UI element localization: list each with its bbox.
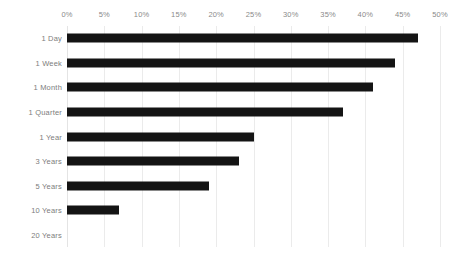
x-tick-label: 10% xyxy=(134,10,150,19)
y-category-label: 3 Years xyxy=(36,157,62,166)
x-tick-label: 50% xyxy=(432,10,448,19)
x-tick-label: 30% xyxy=(283,10,299,19)
bar xyxy=(67,132,254,141)
bar xyxy=(67,157,239,166)
bar xyxy=(67,83,373,92)
x-tick-label: 15% xyxy=(171,10,187,19)
plot-area xyxy=(67,26,440,247)
y-category-label: 1 Week xyxy=(36,58,63,67)
bar xyxy=(67,206,119,215)
y-category-label: 20 Years xyxy=(31,230,62,239)
x-tick-label: 40% xyxy=(358,10,374,19)
bar xyxy=(67,34,418,43)
x-axis-tick-labels: 0%5%10%15%20%25%30%35%40%45%50% xyxy=(67,10,440,24)
gridline-50pct xyxy=(440,26,441,247)
x-tick-label: 25% xyxy=(246,10,262,19)
x-tick-label: 35% xyxy=(320,10,336,19)
x-tick-label: 0% xyxy=(61,10,72,19)
x-tick-label: 20% xyxy=(208,10,224,19)
bar xyxy=(67,107,343,116)
x-tick-label: 5% xyxy=(99,10,110,19)
bar xyxy=(67,181,209,190)
y-category-label: 10 Years xyxy=(31,206,62,215)
y-axis-category-labels: 1 Day1 Week1 Month1 Quarter1 Year3 Years… xyxy=(0,26,62,247)
y-category-label: 1 Day xyxy=(41,34,62,43)
y-category-label: 1 Year xyxy=(40,132,62,141)
x-tick-label: 45% xyxy=(395,10,411,19)
gridline-45pct xyxy=(403,26,404,247)
y-category-label: 1 Month xyxy=(34,83,63,92)
bar xyxy=(67,58,395,67)
bar-chart: 0%5%10%15%20%25%30%35%40%45%50% 1 Day1 W… xyxy=(0,0,465,255)
y-category-label: 5 Years xyxy=(36,181,62,190)
y-category-label: 1 Quarter xyxy=(29,107,62,116)
